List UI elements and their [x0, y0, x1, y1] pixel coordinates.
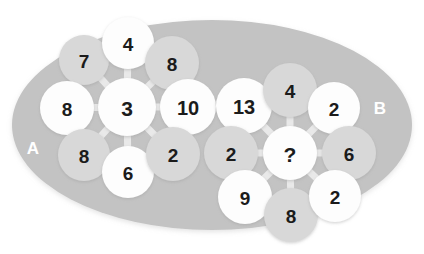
- node-value: 8: [62, 99, 73, 120]
- node-value: 8: [286, 206, 297, 227]
- node-value: 6: [123, 163, 134, 184]
- node-a-se[interactable]: 2: [146, 127, 200, 181]
- node-value: 10: [177, 97, 199, 119]
- node-value: 7: [79, 51, 90, 72]
- node-a-e[interactable]: 10: [160, 79, 216, 135]
- puzzle-canvas: 748831086213422?6982 AB: [0, 0, 424, 254]
- node-value: 13: [233, 96, 255, 118]
- node-value: 4: [123, 34, 134, 55]
- node-value: 2: [168, 145, 179, 166]
- node-a-center[interactable]: 3: [98, 78, 156, 136]
- node-value: 2: [226, 144, 237, 165]
- cluster-label-b: B: [374, 99, 386, 118]
- cluster-label-a: A: [27, 139, 39, 158]
- puzzle-graphic: 748831086213422?6982 AB: [0, 0, 424, 254]
- node-b-se[interactable]: 2: [309, 170, 361, 222]
- node-a-nw[interactable]: 7: [59, 35, 109, 85]
- node-value: 8: [167, 54, 178, 75]
- node-b-sw[interactable]: 9: [218, 170, 272, 224]
- node-value: 2: [329, 99, 340, 120]
- node-value: 2: [330, 187, 341, 208]
- node-value: ?: [284, 143, 297, 166]
- node-a-w[interactable]: 8: [40, 81, 94, 135]
- node-value: 9: [240, 188, 251, 209]
- node-value: 4: [285, 81, 296, 102]
- node-b-center[interactable]: ?: [263, 126, 317, 180]
- node-value: 8: [79, 146, 90, 167]
- node-value: 3: [121, 97, 133, 120]
- node-value: 6: [344, 144, 355, 165]
